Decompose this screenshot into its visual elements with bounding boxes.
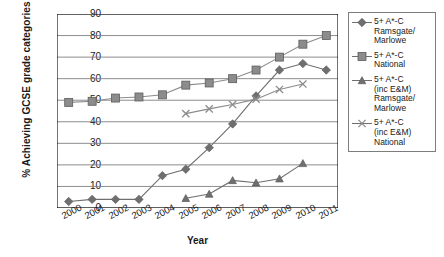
data-point-marker bbox=[322, 66, 330, 74]
data-point-marker bbox=[358, 18, 366, 26]
data-point-marker bbox=[135, 93, 143, 101]
series-2 bbox=[65, 32, 331, 107]
data-point-marker bbox=[299, 59, 307, 67]
data-point-marker bbox=[299, 80, 306, 87]
data-point-marker bbox=[252, 66, 260, 74]
series-line bbox=[186, 163, 303, 198]
data-point-marker bbox=[358, 120, 365, 127]
series-3 bbox=[182, 160, 307, 202]
legend-label: 5+ A*-C National bbox=[373, 51, 405, 70]
data-point-marker bbox=[88, 195, 96, 203]
data-point-marker bbox=[182, 81, 190, 89]
gcse-line-chart: % Achieving GCSE grade categories 908070… bbox=[0, 0, 444, 257]
chart-legend: 5+ A*-C Ramsgate/ Marlowe5+ A*-C Nationa… bbox=[348, 12, 436, 152]
legend-marker-diamond-icon bbox=[351, 17, 373, 29]
legend-marker-square-icon bbox=[351, 51, 373, 63]
data-point-marker bbox=[275, 53, 283, 61]
legend-marker-triangle-icon bbox=[351, 75, 373, 87]
data-point-marker bbox=[112, 94, 120, 102]
legend-marker-cross-icon bbox=[351, 118, 373, 130]
legend-item-2[interactable]: 5+ A*-C National bbox=[351, 51, 433, 70]
data-point-marker bbox=[158, 91, 166, 99]
data-point-marker bbox=[276, 175, 284, 182]
legend-item-3[interactable]: 5+ A*-C (inc E&M) Ramsgate/ Marlowe bbox=[351, 75, 433, 113]
legend-label: 5+ A*-C Ramsgate/ Marlowe bbox=[373, 17, 415, 46]
data-point-marker bbox=[299, 160, 307, 167]
data-point-marker bbox=[322, 32, 330, 40]
data-point-marker bbox=[229, 177, 237, 184]
data-point-marker bbox=[299, 40, 307, 48]
data-point-marker bbox=[65, 98, 73, 106]
data-point-marker bbox=[111, 195, 119, 203]
data-point-marker bbox=[88, 97, 96, 105]
data-point-marker bbox=[358, 52, 366, 60]
legend-label: 5+ A*-C (inc E&M) Ramsgate/ Marlowe bbox=[373, 75, 415, 113]
plot-canvas bbox=[57, 14, 338, 208]
y-axis-title: % Achieving GCSE grade categories bbox=[21, 0, 32, 180]
legend-label: 5+ A*-C (inc E&M) National bbox=[373, 118, 411, 147]
data-point-marker bbox=[358, 77, 366, 84]
data-point-marker bbox=[205, 190, 213, 197]
data-point-marker bbox=[229, 75, 237, 83]
series-4 bbox=[182, 80, 306, 117]
x-axis-title: Year bbox=[57, 235, 338, 246]
series-1 bbox=[65, 59, 331, 205]
data-point-marker bbox=[205, 79, 213, 87]
series-line bbox=[69, 36, 327, 103]
legend-item-4[interactable]: 5+ A*-C (inc E&M) National bbox=[351, 118, 433, 147]
plot-area bbox=[57, 14, 338, 208]
data-point-marker bbox=[276, 86, 283, 93]
legend-item-1[interactable]: 5+ A*-C Ramsgate/ Marlowe bbox=[351, 17, 433, 46]
